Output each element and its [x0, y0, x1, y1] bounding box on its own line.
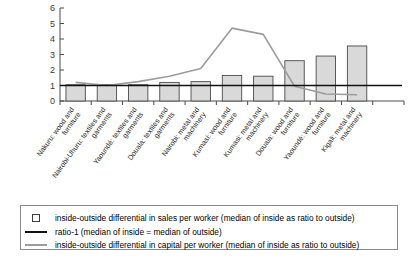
square-outline-marker — [21, 214, 51, 222]
chart-plot-area: 0123456 Nakuru: wood andfurnitureNairobi… — [0, 0, 415, 205]
legend-label-sales-differential: inside-outside differential in sales per… — [51, 213, 355, 223]
y-axis-tick-4: 4 — [50, 34, 55, 44]
chart-container: 0123456 Nakuru: wood andfurnitureNairobi… — [0, 0, 415, 258]
y-axis-tick-labels: 0123456 — [50, 3, 55, 106]
y-axis-tick-3: 3 — [50, 50, 55, 60]
legend-item-sales-differential: inside-outside differential in sales per… — [21, 211, 355, 225]
chart-legend: inside-outside differential in sales per… — [20, 205, 398, 250]
y-axis-tick-2: 2 — [50, 65, 55, 75]
gray-line-marker — [21, 244, 51, 246]
legend-label-capital-differential: inside-outside differential in capital p… — [51, 240, 359, 250]
bar — [97, 85, 116, 101]
bar — [191, 82, 210, 101]
bar — [222, 75, 241, 101]
x-axis-tick-marks — [60, 101, 404, 105]
bar — [66, 85, 85, 101]
y-axis-tick-5: 5 — [50, 19, 55, 29]
legend-item-ratio-one: ratio-1 (median of inside = median of ou… — [21, 225, 222, 239]
legend-label-ratio-one: ratio-1 (median of inside = median of ou… — [51, 227, 222, 237]
bar — [347, 46, 366, 101]
bar — [254, 76, 273, 101]
y-axis-tick-1: 1 — [50, 81, 55, 91]
y-axis-tick-6: 6 — [50, 3, 55, 13]
legend-item-capital-differential: inside-outside differential in capital p… — [21, 238, 359, 252]
black-line-marker — [21, 231, 51, 234]
x-axis-category-labels: Nakuru: wood andfurnitureNairobi-Uhuru: … — [35, 105, 365, 184]
bar — [285, 61, 304, 101]
y-axis-tick-marks — [60, 8, 64, 101]
bar — [128, 85, 147, 101]
y-axis-tick-0: 0 — [50, 96, 55, 106]
